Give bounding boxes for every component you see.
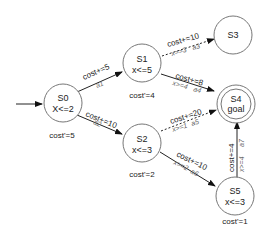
svg-text:S5: S5 bbox=[229, 186, 240, 196]
svg-text:S2: S2 bbox=[136, 134, 147, 144]
state-s0: S0 X<=2 cost'=5 bbox=[44, 84, 82, 140]
svg-text:x>=4: x>=4 bbox=[238, 156, 245, 173]
edge-s1-s3: cost+=10 x==3 a3 bbox=[162, 31, 214, 57]
edge-s0-s1: cost+=5 a1 bbox=[77, 62, 122, 92]
svg-text:a7: a7 bbox=[238, 138, 245, 147]
svg-text:goal: goal bbox=[227, 104, 244, 114]
svg-text:x<=5: x<=5 bbox=[132, 65, 152, 75]
svg-text:a4: a4 bbox=[193, 85, 203, 94]
edge-s2-s4: cost+=20 x>=1 a5 bbox=[161, 107, 216, 133]
svg-text:S0: S0 bbox=[57, 93, 68, 103]
state-s5: S5 x<=3 cost'=1 bbox=[216, 177, 254, 226]
edge-s5-s4: cost+=4 x>=4 a7 bbox=[227, 122, 245, 178]
svg-text:X<=2: X<=2 bbox=[52, 104, 74, 114]
state-s3: S3 bbox=[214, 16, 252, 54]
automaton-diagram: cost+=5 a1 cost+=10 a2 cost+=10 x==3 a3 … bbox=[0, 0, 268, 238]
edge-s1-s4: cost+=8 x>=4 a4 bbox=[161, 71, 214, 94]
svg-text:cost'=1: cost'=1 bbox=[222, 217, 248, 226]
svg-text:x<=3: x<=3 bbox=[225, 197, 245, 207]
state-s1: S1 x<=5 cost'=4 bbox=[123, 44, 161, 100]
state-s2: S2 x<=3 cost'=2 bbox=[123, 124, 161, 179]
svg-text:cost'=4: cost'=4 bbox=[129, 91, 155, 100]
state-s4-goal: S4 goal bbox=[217, 85, 255, 123]
svg-text:S3: S3 bbox=[227, 30, 238, 40]
svg-text:cost+=4: cost+=4 bbox=[227, 143, 236, 172]
svg-text:cost'=2: cost'=2 bbox=[129, 170, 155, 179]
edge-s0-s2: cost+=10 a2 bbox=[77, 110, 122, 134]
svg-text:x<=3: x<=3 bbox=[132, 145, 152, 155]
svg-text:S4: S4 bbox=[230, 94, 241, 104]
edge-s2-s5: cost+=10 x>=2 a6 bbox=[160, 150, 215, 186]
svg-text:a2: a2 bbox=[93, 118, 103, 127]
svg-text:cost'=5: cost'=5 bbox=[49, 131, 75, 140]
svg-text:a3: a3 bbox=[191, 42, 201, 51]
svg-text:S1: S1 bbox=[136, 54, 147, 64]
svg-text:a5: a5 bbox=[190, 118, 200, 127]
